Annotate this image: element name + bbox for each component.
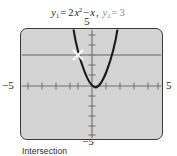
equation-y2-value: 3 <box>118 7 125 18</box>
equation-y1-comma: , <box>95 7 100 18</box>
axis-label-xmax: 5 <box>166 80 172 91</box>
axis-label-ymax: 5 <box>84 16 90 27</box>
graph-plot[interactable] <box>20 28 163 140</box>
calculator-screen[interactable] <box>20 28 163 140</box>
intersection-readout: Intersection <box>22 146 67 156</box>
equation-y2: y2=3 <box>103 5 126 24</box>
axis-label-xmin: −5 <box>2 80 14 91</box>
equation-y1-equals: = <box>59 7 67 18</box>
figure-container: y1=2x2−x,y2=3 5 −5 −5 5 <box>0 0 177 156</box>
equation-y1: y1=2x2−x, <box>51 2 99 24</box>
